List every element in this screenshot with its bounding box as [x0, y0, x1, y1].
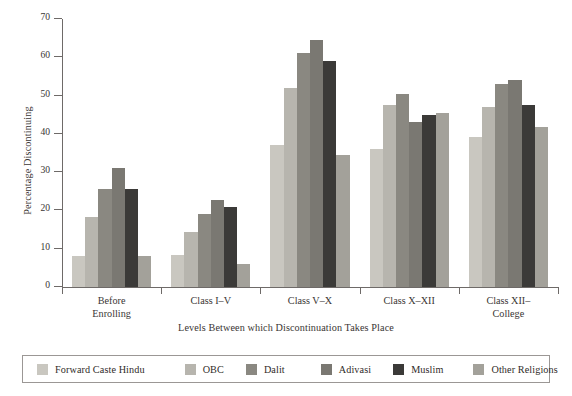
x-axis-line	[62, 287, 559, 288]
bar	[310, 40, 323, 287]
bar	[72, 256, 85, 287]
x-axis-tick	[161, 287, 162, 294]
bar	[112, 168, 125, 287]
legend-item: Adivasi	[321, 364, 371, 375]
x-axis-tick	[62, 287, 63, 294]
y-axis-tick-label: 40	[40, 126, 50, 137]
bar-group	[260, 19, 359, 287]
bar	[436, 113, 449, 287]
x-axis-tick	[558, 287, 559, 294]
bar	[323, 61, 336, 287]
legend-item: OBC	[185, 364, 224, 375]
legend-swatch	[185, 364, 196, 375]
y-axis-tick: 70	[54, 18, 62, 19]
bar-chart-figure: Percentage Discontinuing 010203040506070…	[0, 0, 572, 396]
bar	[138, 256, 151, 287]
y-axis-tick-label: 20	[40, 202, 50, 213]
y-axis-tick: 10	[54, 248, 62, 249]
bar	[495, 84, 508, 287]
x-axis-group-label: Class V–X	[260, 295, 359, 308]
bar	[469, 137, 482, 287]
x-axis-group-label-line: Enrolling	[62, 308, 161, 321]
legend-item: Dalit	[246, 364, 285, 375]
legend-label: Muslim	[411, 364, 443, 375]
legend-label: Adivasi	[339, 364, 371, 375]
bar-group	[459, 19, 558, 287]
bar	[297, 53, 310, 287]
bar	[224, 207, 237, 287]
bar	[396, 94, 409, 287]
bar	[98, 189, 111, 287]
bar	[508, 80, 521, 287]
bar	[211, 200, 224, 287]
y-axis-tick: 20	[54, 209, 62, 210]
bar	[522, 105, 535, 287]
y-axis-tick-label: 30	[40, 164, 50, 175]
bar	[482, 107, 495, 287]
bar	[171, 255, 184, 287]
x-axis-group-label-line: Class XII–	[459, 295, 558, 308]
legend-item: Muslim	[393, 364, 443, 375]
legend-swatch	[473, 364, 484, 375]
bar	[284, 88, 297, 287]
bar	[198, 214, 211, 287]
bar	[422, 115, 435, 287]
x-axis-group-label-line: Class X–XII	[360, 295, 459, 308]
x-axis-title: Levels Between which Discontinuation Tak…	[0, 322, 572, 333]
x-axis-group-label-line: Class V–X	[260, 295, 359, 308]
chart-legend: Forward Caste HinduOBCDalitAdivasiMuslim…	[22, 355, 550, 383]
bar	[535, 127, 548, 287]
y-axis-tick-label: 10	[40, 241, 50, 252]
x-axis-group-label-line: Before	[62, 295, 161, 308]
x-axis-group-label: BeforeEnrolling	[62, 295, 161, 320]
legend-swatch	[246, 364, 257, 375]
bar	[85, 217, 98, 287]
x-axis-group-label-line: Class I–V	[161, 295, 260, 308]
bar-group	[161, 19, 260, 287]
legend-label: OBC	[203, 364, 224, 375]
bar	[383, 105, 396, 287]
legend-label: Forward Caste Hindu	[55, 364, 145, 375]
x-axis-tick	[260, 287, 261, 294]
plot-area: 010203040506070	[62, 19, 558, 287]
bar	[409, 122, 422, 287]
y-axis-tick-label: 0	[45, 279, 50, 290]
legend-swatch	[37, 364, 48, 375]
y-axis-tick: 30	[54, 171, 62, 172]
x-axis-group-label: Class I–V	[161, 295, 260, 308]
legend-swatch	[393, 364, 404, 375]
bar	[336, 155, 349, 287]
bar	[270, 145, 283, 287]
bar	[184, 232, 197, 287]
x-axis-group-label: Class XII–College	[459, 295, 558, 320]
x-axis-group-label: Class X–XII	[360, 295, 459, 308]
bar	[125, 189, 138, 287]
y-axis-tick: 40	[54, 133, 62, 134]
y-axis-tick: 50	[54, 95, 62, 96]
bar-group	[62, 19, 161, 287]
y-axis-tick-label: 50	[40, 88, 50, 99]
x-axis-group-label-line: College	[459, 308, 558, 321]
bar	[370, 149, 383, 287]
x-axis-tick	[360, 287, 361, 294]
y-axis-tick-label: 60	[40, 49, 50, 60]
y-axis-tick: 0	[54, 286, 62, 287]
legend-label: Other Religions	[491, 364, 557, 375]
legend-item: Forward Caste Hindu	[37, 364, 145, 375]
legend-item: Other Religions	[473, 364, 557, 375]
y-axis-title: Percentage Discontinuing	[22, 41, 33, 281]
legend-label: Dalit	[264, 364, 285, 375]
bar-group	[360, 19, 459, 287]
x-axis-tick	[459, 287, 460, 294]
y-axis-tick-label: 70	[40, 11, 50, 22]
legend-swatch	[321, 364, 332, 375]
bar	[237, 264, 250, 287]
y-axis-tick: 60	[54, 56, 62, 57]
